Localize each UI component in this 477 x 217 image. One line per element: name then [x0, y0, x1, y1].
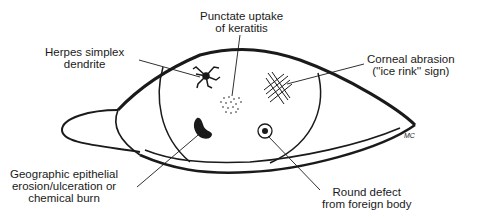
geographic-lesion-icon: [194, 118, 212, 139]
label-geographic-line1: Geographic epithelial: [10, 168, 118, 180]
label-punctate: Punctate uptake of keratitis: [200, 10, 283, 34]
label-abrasion: Corneal abrasion (''ice rink'' sign): [367, 53, 455, 77]
ice-rink-hatch-icon: [264, 72, 292, 104]
label-geographic-line2: erosion/ulceration or: [10, 180, 118, 192]
artist-signature: MC: [404, 130, 415, 142]
label-herpes-line2: dendrite: [45, 58, 124, 70]
label-punctate-line1: Punctate uptake: [200, 10, 283, 22]
leader-herpes: [139, 60, 200, 77]
dendrite-icon: [193, 67, 220, 88]
label-herpes: Herpes simplex dendrite: [45, 46, 124, 70]
label-foreign-body-line1: Round defect: [322, 186, 412, 198]
label-foreign-body-line2: from foreign body: [322, 198, 412, 210]
label-abrasion-line2: (''ice rink'' sign): [367, 65, 455, 77]
label-foreign-body: Round defect from foreign body: [322, 186, 412, 210]
label-geographic: Geographic epithelial erosion/ulceration…: [10, 168, 118, 204]
leader-punctate: [232, 35, 240, 96]
leader-abrasion: [287, 64, 364, 84]
punctate-dots-icon: [220, 96, 242, 114]
foreign-body-dot-icon: [262, 128, 268, 134]
limbus-left: [159, 67, 190, 162]
lower-lid-inner: [145, 128, 400, 163]
label-herpes-line1: Herpes simplex: [45, 46, 124, 58]
label-abrasion-line1: Corneal abrasion: [367, 53, 455, 65]
label-geographic-line3: chemical burn: [10, 192, 118, 204]
label-punctate-line2: of keratitis: [200, 22, 283, 34]
